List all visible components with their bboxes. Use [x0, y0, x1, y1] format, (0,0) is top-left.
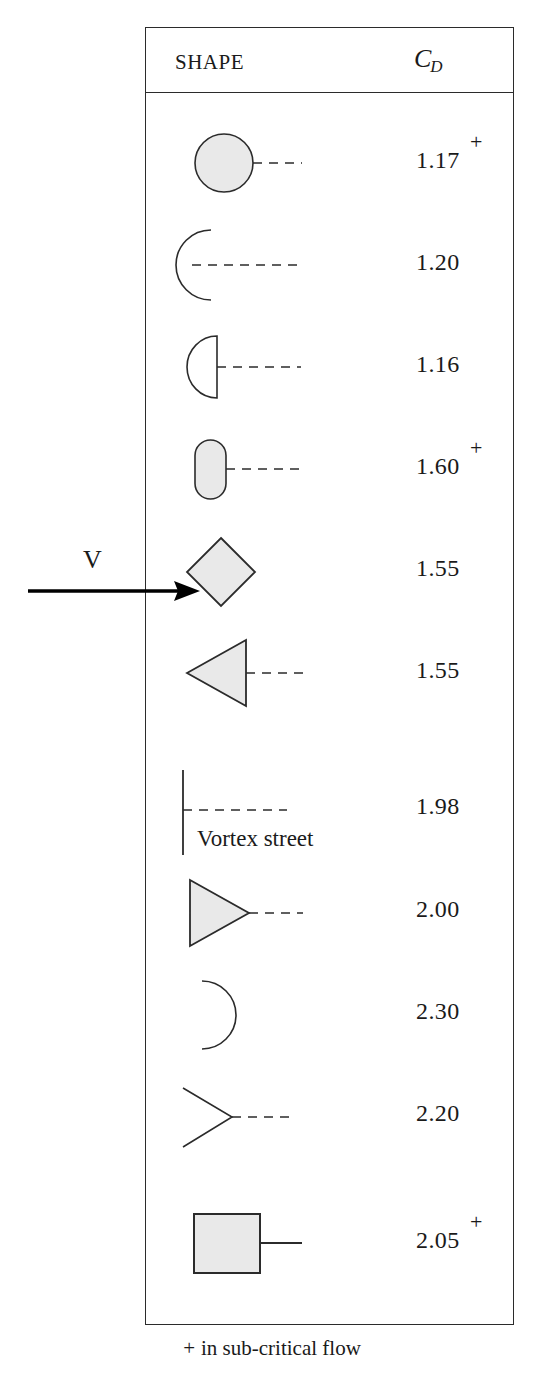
shape-cell-half-disk — [145, 317, 395, 418]
open-cup-downstream-shape — [202, 981, 236, 1049]
cd-cell: 1.55 — [403, 521, 514, 622]
cd-subscript: D — [430, 57, 442, 76]
shape-cell-open-cup-upstream — [145, 215, 395, 316]
circle-shape — [195, 134, 253, 192]
cd-cell: 1.60 + — [403, 419, 514, 520]
velocity-arrow — [28, 560, 208, 604]
table-row: 2.20 — [145, 1066, 514, 1167]
footnote-text: in sub-critical flow — [201, 1336, 361, 1360]
cd-value: 1.17 — [416, 147, 460, 174]
shape-cell-capsule — [145, 419, 395, 520]
cd-value: 2.20 — [416, 1100, 460, 1127]
capsule-shape — [195, 440, 226, 499]
cd-cell: 2.00 — [403, 862, 514, 963]
shape-cell-open-cup-downstream — [145, 964, 395, 1065]
cd-value: 1.55 — [416, 657, 460, 684]
cd-value: 1.55 — [416, 555, 460, 582]
footnote-marker: + — [183, 1336, 195, 1360]
subcritical-marker: + — [470, 437, 482, 459]
table-row: 1.55 — [145, 623, 514, 724]
table-row: 1.98 — [145, 725, 514, 826]
footnote: +in sub-critical flow — [0, 1336, 544, 1361]
cd-cell: 2.30 — [403, 964, 514, 1065]
table-row: 2.05 + — [145, 1193, 514, 1294]
cd-value: 1.98 — [416, 793, 460, 820]
cd-cell: 2.05 + — [403, 1193, 514, 1294]
header-divider — [145, 92, 514, 93]
vortex-street-label: Vortex street — [197, 826, 313, 852]
cd-value: 2.00 — [416, 896, 460, 923]
cd-cell: 1.98 — [403, 725, 514, 826]
cd-cell: 1.20 — [403, 215, 514, 316]
cd-symbol: C — [414, 44, 431, 73]
chevron-shape — [183, 1088, 232, 1147]
table-row: 2.00 — [145, 862, 514, 963]
table-row: 1.60 + — [145, 419, 514, 520]
table-row: 2.30 — [145, 964, 514, 1065]
shape-cell-triangle-flat-upstream — [145, 862, 395, 963]
table-row: 1.16 — [145, 317, 514, 418]
cd-value: 2.30 — [416, 998, 460, 1025]
drag-coefficient-figure: SHAPE CD 1.17 + 1.20 — [0, 0, 544, 1397]
cd-cell: 2.20 — [403, 1066, 514, 1167]
shape-cell-square — [145, 1193, 395, 1294]
cd-cell: 1.16 — [403, 317, 514, 418]
column-header-cd: CD — [414, 44, 443, 77]
cd-value: 1.60 — [416, 453, 460, 480]
cd-value: 2.05 — [416, 1227, 460, 1254]
cd-value: 1.20 — [416, 249, 460, 276]
subcritical-marker: + — [470, 131, 482, 153]
shape-cell-flat-plate — [145, 725, 395, 826]
column-header-shape: SHAPE — [175, 50, 244, 75]
subcritical-marker: + — [470, 1211, 482, 1233]
shape-cell-chevron — [145, 1066, 395, 1167]
cd-value: 1.16 — [416, 351, 460, 378]
triangle-apex-upstream-shape — [187, 640, 246, 706]
table-row: 1.20 — [145, 215, 514, 316]
velocity-label: V — [83, 547, 102, 573]
table-row: 1.17 + — [145, 113, 514, 214]
half-disk-shape — [187, 336, 217, 398]
shape-cell-circle — [145, 113, 395, 214]
cd-cell: 1.17 + — [403, 113, 514, 214]
cd-cell: 1.55 — [403, 623, 514, 724]
shape-cell-triangle-apex-upstream — [145, 623, 395, 724]
square-shape — [194, 1214, 260, 1273]
triangle-flat-upstream-shape — [190, 880, 249, 946]
